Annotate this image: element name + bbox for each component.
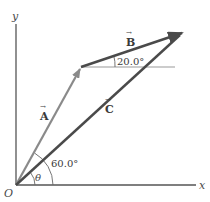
x-axis-label: x	[199, 179, 206, 192]
angle-20-label: 20.0°	[117, 56, 144, 67]
angle-60-label: 60.0°	[51, 158, 78, 169]
vector-a-label: A	[39, 110, 49, 123]
theta-label: θ	[35, 172, 41, 183]
vector-diagram: y x O → A → B → C 20.0° 60.0° θ	[0, 0, 210, 202]
y-axis-label: y	[11, 10, 19, 23]
origin-label: O	[4, 187, 13, 200]
arc-20	[114, 56, 115, 67]
vector-b-label: B	[126, 36, 135, 49]
vector-c-label: C	[105, 103, 114, 116]
